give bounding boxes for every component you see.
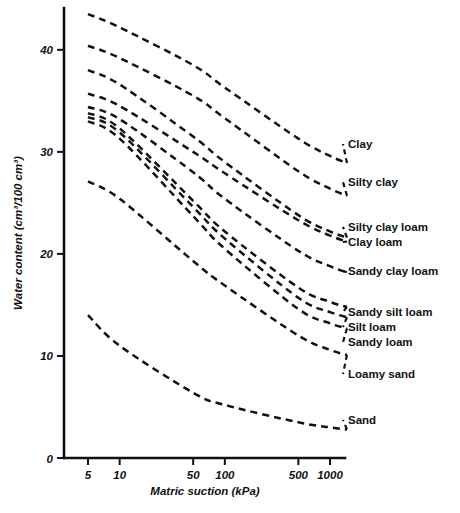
leader-clay — [343, 144, 347, 163]
chart-canvas: 010203040 510501005001000 ClaySilty clay… — [0, 0, 460, 513]
x-axis-title: Matric suction (kPa) — [150, 485, 259, 497]
series-label-clay-loam: Clay loam — [348, 236, 402, 248]
curve-silty-clay — [88, 46, 347, 196]
series-curves — [88, 14, 347, 429]
series-label-sandy-loam: Sandy loam — [348, 336, 413, 348]
series-label-sandy-clay-loam: Sandy clay loam — [348, 265, 438, 277]
series-label-silty-clay: Silty clay — [348, 176, 398, 188]
x-tick-label-10: 10 — [113, 469, 126, 481]
y-tick-label-10: 10 — [40, 350, 53, 362]
y-tick-label-30: 30 — [40, 146, 53, 158]
water-retention-chart: 010203040 510501005001000 ClaySilty clay… — [0, 0, 460, 513]
leader-sandy-silt-loam — [343, 307, 347, 312]
curve-sandy-clay-loam — [88, 107, 347, 272]
curve-silty-clay-loam — [88, 70, 347, 237]
series-label-sandy-silt-loam: Sandy silt loam — [348, 306, 432, 318]
curve-clay-loam — [88, 94, 347, 242]
curve-sand — [88, 315, 347, 429]
series-label-silt-loam: Silt loam — [348, 321, 396, 333]
leader-silt-loam — [343, 317, 347, 327]
y-axis-title: Water content (cm³/100 cm³) — [12, 156, 24, 310]
x-tick-label-500: 500 — [289, 469, 309, 481]
series-leader-lines — [343, 144, 347, 429]
series-label-loamy-sand: Loamy sand — [348, 368, 415, 380]
curve-loamy-sand — [88, 181, 347, 354]
y-axis-tick-labels: 010203040 — [39, 44, 53, 464]
curve-clay — [88, 14, 347, 163]
series-label-sand: Sand — [348, 414, 376, 426]
x-tick-label-50: 50 — [187, 469, 200, 481]
series-labels: ClaySilty claySilty clay loamClay loamSa… — [348, 138, 438, 426]
y-tick-label-0: 0 — [47, 453, 54, 465]
axes-group — [64, 8, 345, 458]
leader-sandy-clay-loam — [343, 271, 347, 272]
y-tick-label-20: 20 — [39, 248, 53, 260]
x-tick-label-5: 5 — [85, 469, 92, 481]
y-tick-label-40: 40 — [39, 44, 53, 56]
x-axis-tick-labels: 510501005001000 — [85, 469, 344, 481]
leader-silty-clay — [343, 182, 347, 196]
x-tick-label-100: 100 — [215, 469, 235, 481]
leader-sandy-loam — [343, 328, 347, 342]
series-label-clay: Clay — [348, 138, 373, 150]
curve-silt-loam — [88, 117, 347, 317]
curve-sandy-silt-loam — [88, 113, 347, 307]
x-tick-label-1000: 1000 — [317, 469, 343, 481]
leader-loamy-sand — [343, 355, 347, 374]
series-label-silty-clay-loam: Silty clay loam — [348, 221, 428, 233]
